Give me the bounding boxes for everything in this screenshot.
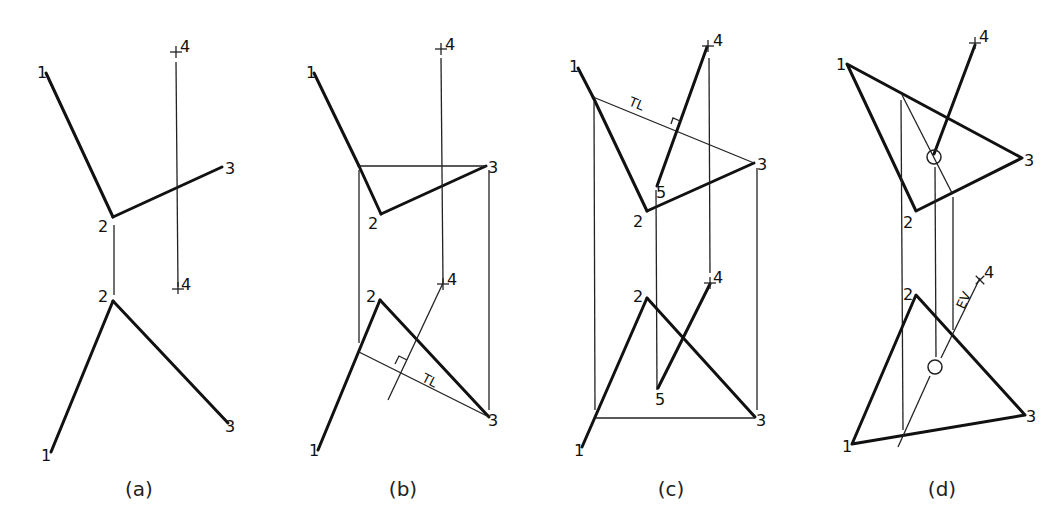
label-1-bottom: 1 bbox=[842, 437, 852, 456]
label-4-bottom: 4 bbox=[713, 268, 723, 287]
line-2-3-top bbox=[113, 167, 222, 217]
label-4-top: 4 bbox=[979, 27, 989, 46]
projector-4 bbox=[709, 58, 710, 273]
label-1-top: 1 bbox=[569, 57, 579, 76]
label-2-bottom: 2 bbox=[366, 287, 376, 306]
line-2-1-bottom bbox=[51, 301, 113, 452]
line-corner-2-top bbox=[593, 97, 647, 211]
label-1-top: 1 bbox=[836, 55, 846, 74]
label-3-top: 3 bbox=[488, 158, 498, 177]
projector-left bbox=[901, 100, 903, 430]
label-1-top: 1 bbox=[306, 63, 316, 82]
label-3-bottom: 3 bbox=[756, 411, 766, 430]
panel-b: 1 2 3 4 2 1 3 4 TL (b) bbox=[306, 35, 498, 501]
line-2-3-top bbox=[381, 166, 486, 214]
line-2-3-bottom bbox=[113, 301, 228, 423]
panel-c: 1 2 3 4 5 2 1 3 4 5 TL (c) bbox=[569, 31, 767, 501]
caption-b: (b) bbox=[389, 477, 417, 501]
label-2-bottom: 2 bbox=[98, 287, 108, 306]
label-5-top: 5 bbox=[656, 183, 666, 202]
line-1-2-top bbox=[46, 73, 113, 217]
label-4-bottom: 4 bbox=[181, 275, 191, 294]
label-1-bottom: 1 bbox=[574, 441, 584, 460]
panel-d: 1 2 3 4 2 1 3 4 EV (d) bbox=[836, 27, 1036, 501]
projector-5 bbox=[656, 190, 657, 390]
label-1-top: 1 bbox=[37, 63, 47, 82]
line-4-5-bottom bbox=[658, 284, 710, 388]
caption-a: (a) bbox=[125, 477, 153, 501]
true-length-line bbox=[593, 97, 754, 163]
line-4-5-top bbox=[657, 47, 707, 186]
line-2-3-bottom bbox=[380, 300, 489, 417]
label-3-bottom: 3 bbox=[488, 411, 498, 430]
construction-line-top bbox=[902, 95, 952, 193]
label-1-bottom: 1 bbox=[309, 441, 319, 460]
label-5-bottom: 5 bbox=[655, 390, 665, 409]
diagram-canvas: 1 2 3 4 2 1 3 4 (a) 1 2 3 4 2 1 3 bbox=[0, 0, 1063, 520]
label-4-top: 4 bbox=[713, 31, 723, 50]
line-1-2-bottom bbox=[318, 300, 380, 450]
caption-d: (d) bbox=[928, 477, 956, 501]
line-1-corner-top bbox=[578, 68, 593, 97]
projector-piercing bbox=[935, 167, 936, 357]
projector-1 bbox=[594, 102, 595, 410]
label-tl: TL bbox=[419, 370, 441, 391]
label-3-top: 3 bbox=[1024, 151, 1034, 170]
label-3-bottom: 3 bbox=[1026, 407, 1036, 426]
line-1-2-bottom bbox=[582, 298, 647, 447]
panel-a: 1 2 3 4 2 1 3 4 (a) bbox=[37, 37, 235, 501]
label-2-top: 2 bbox=[903, 213, 913, 232]
piercing-point-circle-bottom bbox=[928, 360, 942, 374]
label-4-bottom: 4 bbox=[984, 263, 994, 282]
triangle-bottom bbox=[852, 295, 1025, 444]
label-4-top: 4 bbox=[180, 37, 190, 56]
line-1-corner-top bbox=[314, 73, 359, 166]
label-4-bottom: 4 bbox=[447, 270, 457, 289]
label-tl: TL bbox=[626, 93, 647, 113]
label-2-bottom: 2 bbox=[633, 287, 643, 306]
label-ev: EV bbox=[953, 289, 974, 311]
label-3-top: 3 bbox=[757, 155, 767, 174]
line-4-top-projector bbox=[176, 62, 178, 287]
label-2-top: 2 bbox=[98, 217, 108, 236]
label-1-bottom: 1 bbox=[41, 446, 51, 465]
projector-4 bbox=[441, 58, 443, 283]
label-3-bottom: 3 bbox=[225, 417, 235, 436]
line-corner-2-top bbox=[359, 166, 381, 214]
label-2-top: 2 bbox=[368, 214, 378, 233]
label-2-bottom: 2 bbox=[903, 285, 913, 304]
caption-c: (c) bbox=[658, 477, 685, 501]
line-4-piercing-top bbox=[934, 45, 975, 154]
label-2-top: 2 bbox=[633, 212, 643, 231]
label-4-top: 4 bbox=[445, 35, 455, 54]
label-3-top: 3 bbox=[225, 159, 235, 178]
